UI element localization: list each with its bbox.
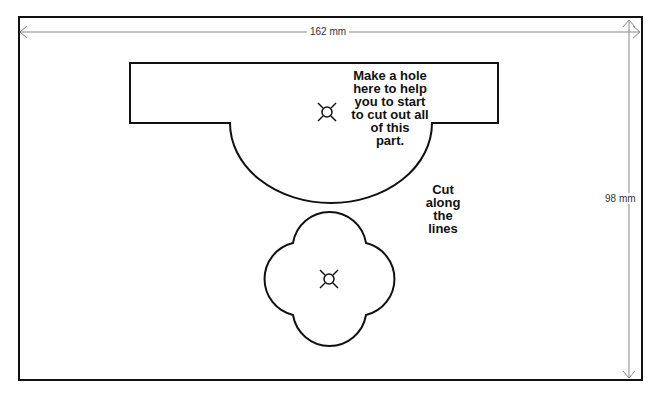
cut-instruction-note: Cut along the lines (418, 183, 468, 235)
hole-marker-icon (318, 103, 336, 121)
quatrefoil-cutout-shape (265, 212, 395, 346)
template-diagram (0, 0, 658, 393)
width-dimension-label: 162 mm (307, 26, 349, 37)
height-dimension-label: 98 mm (602, 193, 639, 204)
hole-instruction-note: Make a hole here to help you to start to… (342, 69, 438, 147)
hole-marker-icon (320, 270, 338, 288)
card-border (19, 17, 642, 380)
